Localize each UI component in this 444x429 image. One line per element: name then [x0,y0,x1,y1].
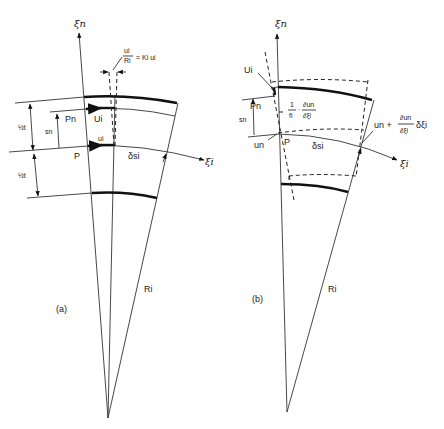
right-disp-num-b: ∂un [400,114,411,121]
ui-upper-arrow-a [86,108,101,109]
tangent-axis-label-b: ξi [400,158,409,169]
sn-label-b: sn [239,116,247,123]
arc-length-label-b: δsi [312,141,324,151]
mid-surface-a [88,146,204,160]
ui-mid-arrow-a [88,145,102,146]
annotation-rest-a: = Ki ui [136,54,156,61]
right-disp-prefix-b: un + [374,120,392,130]
point-pn-label-a: Pn [65,114,76,124]
normal-axis-label-a: ξn [74,18,86,29]
panel-b: ξn Ui Pn sn 1 fi · ∂un ∂ξi [239,18,427,412]
bottom-surface-ext-a [27,193,92,198]
normal-axis-b [277,34,287,412]
un-label-b: un [254,140,264,150]
radius-label-a: Ri [144,284,153,294]
right-disp-den-b: ∂ξi [400,127,409,135]
panel-a: ξn ui Ri = Ki ui ½t [9,18,214,418]
ui-mid-label-a: ui [98,135,104,142]
sn-label-a: sn [45,128,53,135]
annotation-den-a: Ri [124,57,131,64]
tangent-axis-label-a: ξi [205,156,214,167]
normal-axis-label-b: ξn [275,18,287,29]
displaced-top-b [272,80,368,83]
radial-edge-right-a [108,103,178,418]
right-disp-suffix-b: δξi [416,120,427,130]
sn-dim-a [57,114,59,148]
rotation-dot-b: · [298,106,300,113]
half-thickness-top-label-a: ½t [18,124,26,131]
pn-layer-ext-a [50,109,86,112]
radius-label-b: Ri [328,284,337,294]
displaced-normal-2-a [115,72,117,146]
displaced-mid-b [278,129,364,133]
top-surface-a [84,96,177,103]
point-p-label-b: P [284,137,290,147]
annotation-num-a: ui [124,47,130,54]
rotation-frac-den-b: fi [289,112,293,119]
rotation-frac-num-b: 1 [290,101,294,108]
ui-small-disp-b [274,88,275,95]
arc-length-label-a: δsi [128,151,140,161]
rotation-num-b: ∂un [303,101,314,108]
half-thickness-top-dim-a [30,104,33,150]
panel-label-b: (b) [252,294,263,304]
half-thickness-bottom-dim-a [34,154,38,196]
shell-deformation-diagram: ξn ui Ri = Ki ui ½t [0,0,444,429]
displaced-bottom-b [289,175,356,177]
point-p-label-a: P [74,151,80,161]
bottom-surface-a [92,193,157,198]
top-surface-b [278,87,372,100]
ui-upper-label-a: Ui [94,114,103,124]
ui-label-b: Ui [244,65,253,75]
normal-axis-a [79,33,108,418]
panel-label-a: (a) [56,304,67,314]
rotation-den-b: ∂ξi [303,112,312,120]
top-surface-ext-a [15,97,84,103]
pn-layer-ext-b [242,96,275,100]
mid-surface-b [279,134,397,160]
half-thickness-bottom-label-a: ½t [18,172,26,179]
point-pn-label-b: Pn [250,101,261,111]
annotation-leader-a [113,57,122,70]
